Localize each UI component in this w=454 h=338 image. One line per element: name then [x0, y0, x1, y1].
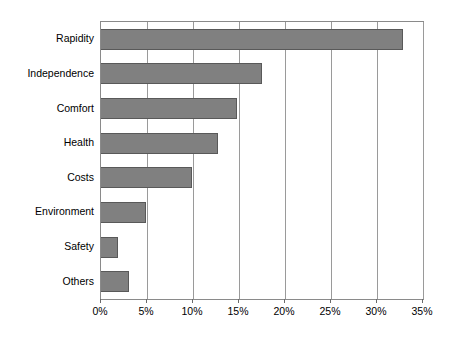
- x-tick-mark: [146, 299, 147, 303]
- category-label-independence: Independence: [0, 67, 94, 79]
- chart-page: RapidityIndependenceComfortHealthCostsEn…: [0, 0, 454, 338]
- bar-comfort: [101, 98, 237, 119]
- bar-row: [101, 202, 423, 223]
- category-label-costs: Costs: [0, 171, 94, 183]
- bar-rapidity: [101, 29, 403, 50]
- bar-series: [101, 22, 423, 299]
- y-axis-category-labels: RapidityIndependenceComfortHealthCostsEn…: [0, 21, 94, 298]
- x-tick-mark: [284, 299, 285, 303]
- category-label-environment: Environment: [0, 205, 94, 217]
- x-tick-mark: [376, 299, 377, 303]
- x-tick-mark: [422, 299, 423, 303]
- bar-costs: [101, 167, 192, 188]
- bar-health: [101, 133, 218, 154]
- x-tick-label-35pct: 35%: [411, 305, 432, 317]
- bar-row: [101, 133, 423, 154]
- x-tick-label-20pct: 20%: [273, 305, 294, 317]
- bar-independence: [101, 63, 262, 84]
- category-label-others: Others: [0, 275, 94, 287]
- category-label-rapidity: Rapidity: [0, 32, 94, 44]
- bar-row: [101, 29, 423, 50]
- bar-row: [101, 271, 423, 292]
- x-tick-mark: [238, 299, 239, 303]
- x-tick-label-25pct: 25%: [319, 305, 340, 317]
- bar-others: [101, 271, 129, 292]
- category-label-safety: Safety: [0, 240, 94, 252]
- x-tick-label-5pct: 5%: [138, 305, 153, 317]
- bar-row: [101, 63, 423, 84]
- category-label-comfort: Comfort: [0, 102, 94, 114]
- x-tick-label-0pct: 0%: [92, 305, 107, 317]
- x-tick-mark: [330, 299, 331, 303]
- x-tick-label-10pct: 10%: [181, 305, 202, 317]
- x-tick-label-15pct: 15%: [227, 305, 248, 317]
- x-axis-ticks: 0%5%10%15%20%25%30%35%: [100, 299, 422, 319]
- bar-row: [101, 98, 423, 119]
- plot-area: [100, 21, 424, 300]
- bar-row: [101, 237, 423, 258]
- gridline-35pct: [423, 22, 424, 299]
- x-tick-mark: [100, 299, 101, 303]
- bar-environment: [101, 202, 146, 223]
- x-tick-label-30pct: 30%: [365, 305, 386, 317]
- x-tick-mark: [192, 299, 193, 303]
- bar-row: [101, 167, 423, 188]
- category-label-health: Health: [0, 136, 94, 148]
- bar-safety: [101, 237, 118, 258]
